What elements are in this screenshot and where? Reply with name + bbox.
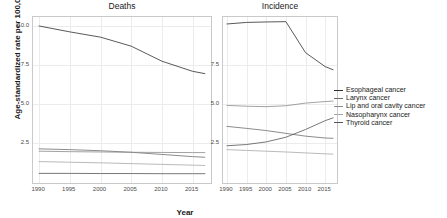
y-tick-label: 7.5	[197, 61, 219, 67]
x-axis-title: Year	[32, 208, 338, 217]
y-tick-label: 2.5	[197, 139, 219, 145]
panel-title-deaths: Deaths	[32, 1, 212, 11]
series-line	[227, 126, 333, 138]
legend-label: Lip and oral cavity cancer	[346, 102, 425, 110]
x-tick-label: 1990	[23, 186, 53, 192]
series-line	[39, 151, 205, 152]
x-tick-label: 2015	[309, 186, 339, 192]
legend-swatch-line-icon	[334, 122, 343, 123]
panel-title-incidence: Incidence	[222, 1, 338, 11]
series-line	[39, 149, 205, 157]
legend-swatch-line-icon	[334, 106, 343, 107]
series-line	[227, 22, 333, 70]
y-tick-label: 10.0	[7, 22, 29, 28]
legend-swatch-line-icon	[334, 114, 343, 115]
legend: Esophageal cancerLarynx cancerLip and or…	[334, 86, 446, 127]
legend-label: Esophageal cancer	[346, 86, 406, 94]
series-line	[227, 150, 333, 155]
panel-deaths: Deaths 2.55.07.510.0 1990199520002005201…	[32, 16, 212, 184]
y-tick-label: 2.5	[7, 139, 29, 145]
y-tick-label: 5.0	[7, 100, 29, 106]
series-layer-deaths	[33, 17, 211, 183]
legend-label: Larynx cancer	[346, 94, 390, 102]
series-line	[39, 162, 205, 166]
y-tick-label: 7.5	[7, 61, 29, 67]
legend-label: Thyroid cancer	[346, 119, 392, 127]
plot-area-incidence	[222, 16, 338, 184]
legend-item[interactable]: Esophageal cancer	[334, 86, 446, 94]
series-line	[39, 26, 205, 74]
series-line	[227, 118, 333, 146]
x-tick-label: 2010	[146, 186, 176, 192]
x-tick-label: 2015	[177, 186, 207, 192]
legend-swatch-line-icon	[334, 98, 343, 99]
y-tick-label: 5.0	[197, 100, 219, 106]
x-tick-label: 2000	[85, 186, 115, 192]
legend-label: Nasopharynx cancer	[346, 111, 410, 119]
panel-incidence: Incidence 2.55.07.5 19901995200020052010…	[222, 16, 338, 184]
x-tick-label: 2005	[115, 186, 145, 192]
series-line	[227, 101, 333, 107]
legend-swatch-line-icon	[334, 90, 343, 91]
legend-item[interactable]: Lip and oral cavity cancer	[334, 102, 446, 110]
series-layer-incidence	[223, 17, 337, 183]
legend-item[interactable]: Larynx cancer	[334, 94, 446, 102]
x-tick-label: 1995	[54, 186, 84, 192]
legend-item[interactable]: Thyroid cancer	[334, 119, 446, 127]
legend-item[interactable]: Nasopharynx cancer	[334, 111, 446, 119]
plot-area-deaths	[32, 16, 212, 184]
